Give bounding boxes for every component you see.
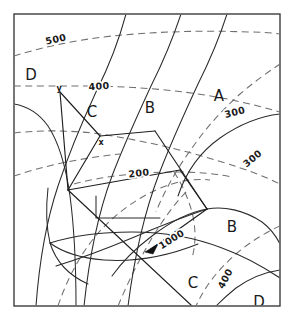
zone-label: C <box>188 274 198 292</box>
contour-map-figure: 5005004004003003003003002002001000100040… <box>0 0 293 318</box>
map-frame <box>14 14 280 306</box>
contour-value-label: 200200 <box>128 166 150 179</box>
zone-label: C <box>87 103 97 121</box>
survey-point-label: y <box>56 84 62 93</box>
zone-label: A <box>214 87 225 105</box>
map-canvas: 5005004004003003003003002002001000100040… <box>0 0 293 318</box>
zone-label: D <box>25 66 37 84</box>
zone-label: B <box>227 218 237 236</box>
zone-label: B <box>145 99 155 117</box>
map-border <box>14 14 280 306</box>
zone-label: D <box>253 293 265 311</box>
contour-value-label-text: 200 <box>128 166 150 179</box>
contour-value-label: 400400 <box>88 80 110 92</box>
contour-value-label-text: 400 <box>88 80 110 92</box>
survey-point-label: x <box>98 138 104 147</box>
